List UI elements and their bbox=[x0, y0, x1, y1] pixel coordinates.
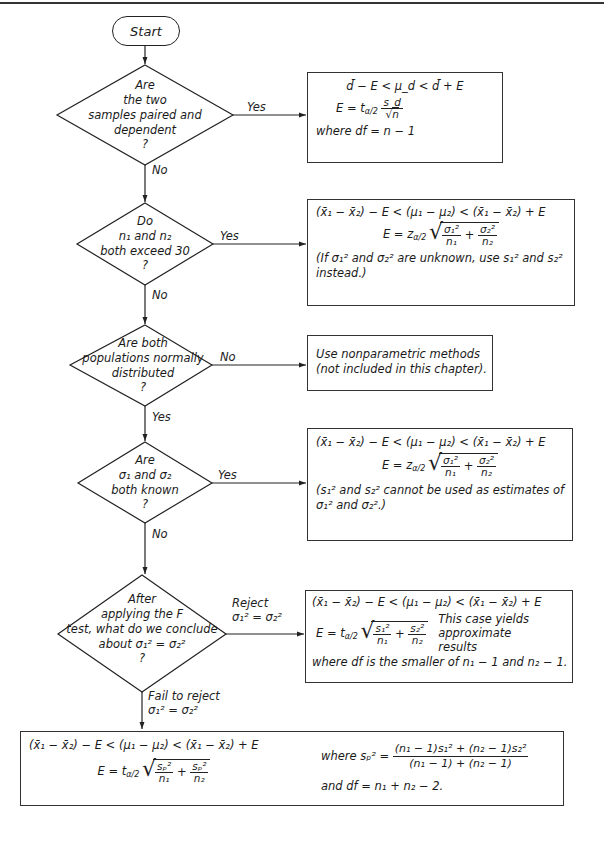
fraction: sₚ²n₁ bbox=[155, 761, 173, 784]
note-line: (If σ₁² and σ₂² are unknown, use s₁² and… bbox=[316, 251, 566, 266]
note-line: instead.) bbox=[316, 266, 566, 281]
reject-label-line: σ₁² = σ₂² bbox=[232, 610, 282, 624]
pooled-right-column: where sₚ² = (n₁ − 1)s₁² + (n₂ − 1)s₂² (n… bbox=[321, 742, 561, 794]
degrees-of-freedom: and df = n₁ + n₂ − 2. bbox=[321, 779, 561, 794]
decision-large-n-yes-label: Yes bbox=[220, 229, 239, 243]
result-sigma-known-box: (x̄₁ − x̄₂) − E < (μ₁ − μ₂) < (x̄₁ − x̄₂… bbox=[307, 428, 573, 541]
alpha-subscript: α/2 bbox=[126, 770, 139, 779]
fraction: (n₁ − 1)s₁² + (n₂ − 1)s₂² (n₁ − 1) + (n₂… bbox=[393, 742, 529, 771]
fraction-denominator: n₁ bbox=[442, 236, 461, 247]
decision-line: the two bbox=[60, 93, 230, 108]
margin-row: E = tα/2 s₁²n₁ + s₂²n₂ This case yields … bbox=[312, 612, 566, 654]
interval-formula: (x̄₁ − x̄₂) − E < (μ₁ − μ₂) < (x̄₁ − x̄₂… bbox=[316, 435, 564, 450]
alpha-subscript: α/2 bbox=[413, 233, 426, 242]
decision-sigma-known-text: Are σ₁ and σ₂ both known ? bbox=[80, 453, 210, 510]
fail-label-line: σ₁² = σ₂² bbox=[148, 703, 220, 717]
decision-f-test-fail-label: Fail to reject σ₁² = σ₂² bbox=[148, 689, 220, 717]
fraction-denominator: n₂ bbox=[477, 467, 496, 478]
margin-lhs: E = t bbox=[336, 101, 365, 115]
decision-sigma-known-no-label: No bbox=[152, 527, 168, 541]
start-label: Start bbox=[130, 24, 162, 39]
decision-paired-no-label: No bbox=[152, 163, 168, 177]
margin-lhs: E = t bbox=[98, 764, 127, 778]
decision-line: ? bbox=[75, 259, 215, 271]
fraction: σ₂²n₂ bbox=[478, 224, 497, 247]
result-unequal-variance-box: (x̄₁ − x̄₂) − E < (μ₁ − μ₂) < (x̄₁ − x̄₂… bbox=[305, 590, 573, 683]
fraction-denominator: n₁ bbox=[373, 635, 391, 646]
pooled-left-column: (x̄₁ − x̄₂) − E < (μ₁ − μ₂) < (x̄₁ − x̄₂… bbox=[29, 738, 279, 784]
decision-line: populations normally bbox=[68, 351, 218, 366]
fraction-denominator: n₂ bbox=[190, 773, 208, 784]
decision-line: dependent bbox=[60, 123, 230, 138]
decision-large-n-text: Do n₁ and n₂ both exceed 30 ? bbox=[75, 214, 215, 271]
note-line: approximate bbox=[438, 626, 529, 640]
fraction: σ₁²n₁ bbox=[441, 455, 460, 478]
decision-line: Are bbox=[80, 453, 210, 468]
margin-lhs: E = z bbox=[382, 458, 412, 472]
pooled-variance-formula: where sₚ² = (n₁ − 1)s₁² + (n₂ − 1)s₂² (n… bbox=[321, 742, 561, 771]
square-root: sₚ²n₁ + sₚ²n₂ bbox=[153, 759, 210, 784]
note-line: σ₁² and σ₂².) bbox=[316, 498, 564, 513]
decision-normal-yes-label: Yes bbox=[152, 410, 171, 424]
result-paired-interval-box: d̄ − E < μ_d < d̄ + E E = tα/2 s_d √n wh… bbox=[307, 72, 503, 163]
margin-of-error-formula: E = tα/2 s₁²n₁ + s₂²n₂ bbox=[312, 621, 428, 646]
decision-line: ? bbox=[57, 652, 227, 664]
decision-large-n-no-label: No bbox=[152, 288, 168, 302]
note-line: This case yields bbox=[438, 612, 529, 626]
decision-line: ? bbox=[80, 498, 210, 510]
sqrt-arg: n bbox=[392, 107, 399, 120]
fraction-denominator: (n₁ − 1) + (n₂ − 1) bbox=[393, 757, 529, 771]
reject-label-line: Reject bbox=[232, 596, 282, 610]
fraction: σ₂²n₂ bbox=[477, 455, 496, 478]
result-nonparametric-box: Use nonparametric methods (not included … bbox=[307, 335, 493, 391]
decision-line: ? bbox=[60, 138, 230, 150]
fraction-denominator: √n bbox=[381, 109, 402, 120]
margin-lhs: E = t bbox=[316, 626, 345, 640]
pooled-lhs: where sₚ² = bbox=[321, 749, 389, 763]
decision-line: ? bbox=[68, 381, 218, 393]
alpha-subscript: α/2 bbox=[412, 464, 425, 473]
decision-line: σ₁ and σ₂ bbox=[80, 468, 210, 483]
interval-formula: (x̄₁ − x̄₂) − E < (μ₁ − μ₂) < (x̄₁ − x̄₂… bbox=[29, 738, 279, 753]
note-line: (s₁² and s₂² cannot be used as estimates… bbox=[316, 483, 564, 498]
fraction: s₁²n₁ bbox=[373, 623, 391, 646]
start-terminal: Start bbox=[112, 16, 180, 46]
fraction: σ₁²n₁ bbox=[442, 224, 461, 247]
margin-of-error-formula: E = tα/2 s_d √n bbox=[316, 97, 494, 120]
margin-of-error-formula: E = zα/2 σ₁²n₁ + σ₂²n₂ bbox=[316, 453, 564, 478]
square-root: σ₁²n₁ + σ₂²n₂ bbox=[439, 453, 498, 478]
decision-normal-text: Are both populations normally distribute… bbox=[68, 336, 218, 393]
decision-line: about σ₁² = σ₂² bbox=[57, 637, 227, 652]
decision-line: both known bbox=[80, 483, 210, 498]
decision-paired-yes-label: Yes bbox=[247, 100, 266, 114]
margin-of-error-formula: E = zα/2 σ₁²n₁ + σ₂²n₂ bbox=[316, 222, 566, 247]
decision-line: applying the F bbox=[57, 607, 227, 622]
interval-formula: d̄ − E < μ_d < d̄ + E bbox=[316, 79, 494, 94]
margin-lhs: E = z bbox=[383, 227, 413, 241]
decision-line: Do bbox=[75, 214, 215, 229]
margin-of-error-formula: E = tα/2 sₚ²n₁ + sₚ²n₂ bbox=[29, 759, 279, 784]
degrees-of-freedom: where df is the smaller of n₁ − 1 and n₂… bbox=[312, 655, 566, 670]
decision-paired-text: Are the two samples paired and dependent… bbox=[60, 78, 230, 150]
decision-line: test, what do we conclude bbox=[57, 622, 227, 637]
decision-line: After bbox=[57, 592, 227, 607]
decision-f-test-text: After applying the F test, what do we co… bbox=[57, 592, 227, 664]
result-large-samples-box: (x̄₁ − x̄₂) − E < (μ₁ − μ₂) < (x̄₁ − x̄₂… bbox=[307, 199, 575, 306]
note-line: results bbox=[438, 640, 529, 654]
decision-line: n₁ and n₂ bbox=[75, 229, 215, 244]
decision-line: Are bbox=[60, 78, 230, 93]
decision-line: samples paired and bbox=[60, 108, 230, 123]
decision-sigma-known-yes-label: Yes bbox=[218, 468, 237, 482]
alpha-subscript: α/2 bbox=[345, 632, 358, 641]
fraction: sₚ²n₂ bbox=[190, 761, 208, 784]
nonparametric-line: Use nonparametric methods bbox=[316, 347, 484, 362]
decision-line: distributed bbox=[68, 366, 218, 381]
fraction-denominator: n₁ bbox=[441, 467, 460, 478]
fraction-numerator: s₂² bbox=[408, 623, 426, 635]
interval-formula: (x̄₁ − x̄₂) − E < (μ₁ − μ₂) < (x̄₁ − x̄₂… bbox=[312, 595, 566, 610]
alpha-subscript: α/2 bbox=[365, 107, 378, 116]
decision-line: both exceed 30 bbox=[75, 244, 215, 259]
fraction-numerator: (n₁ − 1)s₁² + (n₂ − 1)s₂² bbox=[393, 742, 529, 757]
interval-formula: (x̄₁ − x̄₂) − E < (μ₁ − μ₂) < (x̄₁ − x̄₂… bbox=[316, 205, 566, 220]
approximation-note: This case yields approximate results bbox=[438, 612, 529, 654]
